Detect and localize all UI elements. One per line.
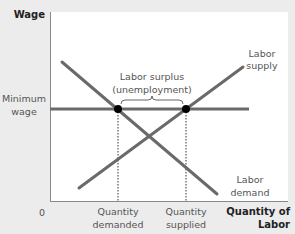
min-wage-label-1: Minimum [2,93,46,104]
demand-label-2: demand [230,187,269,198]
supply-label-1: Labor [249,48,276,59]
qd-point [114,105,122,113]
x-axis-label-2: Labor [258,219,290,230]
origin-label: 0 [39,207,45,218]
y-axis-label: Wage [14,9,46,20]
qd-label-2: demanded [93,219,144,230]
demand-label-1: Labor [237,174,264,185]
supply-label-2: supply [246,60,278,71]
x-axis-label-1: Quantity of [226,206,290,217]
min-wage-label-2: wage [11,106,37,117]
qs-label-1: Quantity [165,206,206,217]
minimum-wage-chart: Wage Minimum wage 0 Labor supply Labor d… [0,0,295,234]
qd-label-1: Quantity [97,206,138,217]
plot-area [50,12,288,201]
surplus-label-1: Labor surplus [120,71,184,82]
qs-point [182,105,190,113]
surplus-label-2: (unemployment) [112,84,192,95]
qs-label-2: supplied [166,219,206,230]
